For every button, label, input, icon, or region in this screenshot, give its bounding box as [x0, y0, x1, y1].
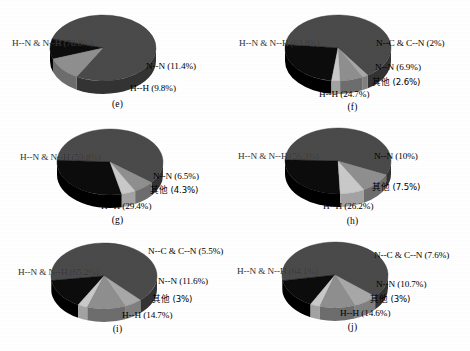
pie-caption-f: (f)	[235, 102, 470, 112]
pie-stage-e	[0, 0, 235, 115]
pie-chart-h	[235, 115, 470, 230]
pie-chart-figure-grid: H--N & N--H (78.8%) N--N (11.4%) H--H (9…	[0, 0, 470, 351]
pie-label-other-h: 其他 (7.5%)	[372, 182, 420, 192]
pie-label-nn-g: N--N (6.5%)	[153, 171, 199, 181]
pie-label-other-j: 其他 (3%)	[370, 294, 410, 304]
pie-label-hh-g: H--H (29.4%)	[101, 201, 151, 211]
pie-caption-h: (h)	[235, 216, 470, 226]
pie-label-main-g: H--N & N--H (59.8%)	[20, 152, 101, 162]
pie-label-nn-j: N--N (10.7%)	[376, 279, 426, 289]
pie-caption-i: (i)	[0, 324, 235, 334]
pie-label-other-g: 其他 (4.3%)	[150, 185, 198, 195]
pie-caption-j: (j)	[235, 322, 470, 332]
pie-stage-g	[0, 115, 235, 230]
pie-label-main-f: H--N & N--H (63.8%)	[239, 38, 320, 48]
pie-label-nn-h: N--N (10%)	[374, 151, 418, 161]
pie-label-nn-f: N--N (6.9%)	[375, 62, 421, 72]
pie-caption-e: (e)	[0, 99, 235, 109]
pie-stage-j	[235, 230, 470, 351]
pie-label-main-j: H--N & N--H (64.1%)	[237, 266, 318, 276]
pie-label-nn-e: N--N (11.4%)	[146, 61, 196, 71]
pie-label-main-i: H--N & N--H (65.2%)	[18, 267, 99, 277]
pie-label-ncn-j: N--C & C--N (7.6%)	[374, 250, 449, 260]
pie-caption-g: (g)	[0, 215, 235, 225]
pie-label-hh-j: H--H (14.6%)	[340, 308, 390, 318]
pie-panel-f: H--N & N--H (63.8%) N--C & C--N (2%) N--…	[235, 0, 470, 115]
pie-stage-h	[235, 115, 470, 230]
pie-label-hh-i: H--H (14.7%)	[122, 310, 172, 320]
pie-chart-j	[235, 230, 470, 351]
pie-panel-h: H--N & N--H (56.3%) N--N (10%) 其他 (7.5%)…	[235, 115, 470, 230]
pie-label-hh-f: H--H (24.7%)	[319, 89, 369, 99]
pie-label-main-h: H--N & N--H (56.3%)	[238, 151, 319, 161]
pie-label-main-e: H--N & N--H (78.8%)	[12, 38, 93, 48]
pie-chart-e	[0, 0, 235, 115]
pie-panel-i: H--N & N--H (65.2%) N--C & C--N (5.5%) N…	[0, 230, 235, 351]
pie-label-hh-e: H--H (9.8%)	[130, 83, 176, 93]
pie-label-other-i: 其他 (3%)	[152, 294, 192, 304]
pie-panel-e: H--N & N--H (78.8%) N--N (11.4%) H--H (9…	[0, 0, 235, 115]
pie-label-ncn-i: N--C & C--N (5.5%)	[148, 246, 223, 256]
pie-chart-g	[0, 115, 235, 230]
pie-panel-j: H--N & N--H (64.1%) N--C & C--N (7.6%) N…	[235, 230, 470, 351]
pie-label-nn-i: N--N (11.6%)	[158, 276, 208, 286]
pie-panel-g: H--N & N--H (59.8%) N--N (6.5%) 其他 (4.3%…	[0, 115, 235, 230]
pie-label-hh-h: H--H (26.2%)	[323, 201, 373, 211]
pie-label-ncn-f: N--C & C--N (2%)	[376, 38, 445, 48]
pie-label-other-f: 其他 (2.6%)	[372, 77, 420, 87]
